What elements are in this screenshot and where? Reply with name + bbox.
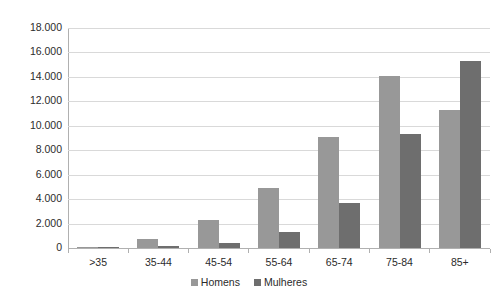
x-axis-tick-end — [490, 249, 491, 253]
legend-item-mulheres[interactable]: Mulheres — [254, 276, 307, 288]
x-axis-category-label: 75-84 — [369, 256, 429, 268]
x-axis-tick — [430, 249, 490, 254]
y-axis-labels: 18.00016.00014.00012.00010.0008.0006.000… — [0, 0, 62, 299]
legend-swatch-icon — [254, 279, 261, 286]
bar-mulheres-65-74[interactable] — [339, 203, 360, 248]
x-axis-category-label: 45-54 — [189, 256, 249, 268]
bar-group — [369, 28, 429, 248]
y-axis-tick-label: 18.000 — [4, 22, 62, 33]
bar-mulheres-35-44[interactable] — [158, 246, 179, 248]
bar-homens-75-84[interactable] — [379, 76, 400, 248]
bar-mulheres-45-54[interactable] — [219, 243, 240, 249]
bar-chart: 18.00016.00014.00012.00010.0008.0006.000… — [0, 0, 498, 299]
legend-label: Mulheres — [264, 276, 307, 288]
y-axis-tick-label: 10.000 — [4, 120, 62, 131]
x-axis-labels: >3535-4445-5455-6465-7475-8485+ — [68, 256, 490, 268]
bar-group — [189, 28, 249, 248]
y-axis-tick-label: 14.000 — [4, 71, 62, 82]
legend-swatch-icon — [191, 279, 198, 286]
x-axis-tick — [309, 249, 369, 254]
plot-area — [68, 28, 490, 248]
bar-group — [68, 28, 128, 248]
y-axis-tick-label: 12.000 — [4, 95, 62, 106]
legend-label: Homens — [201, 276, 240, 288]
x-axis-category-label: 85+ — [430, 256, 490, 268]
bar-homens-45-54[interactable] — [198, 220, 219, 248]
bar-homens-85+[interactable] — [439, 110, 460, 248]
chart-legend: HomensMulheres — [0, 276, 498, 288]
x-axis-category-label: 55-64 — [249, 256, 309, 268]
y-axis-tick-label: 2.000 — [4, 218, 62, 229]
bar-mulheres-75-84[interactable] — [400, 134, 421, 248]
bar-mulheres-85+[interactable] — [460, 61, 481, 248]
x-axis-tick — [68, 249, 128, 254]
bar-homens-35-44[interactable] — [137, 239, 158, 248]
x-axis-tick — [369, 249, 429, 254]
x-axis-tick — [128, 249, 188, 254]
y-axis-tick-label: 6.000 — [4, 169, 62, 180]
y-axis-tick-label: 0 — [4, 242, 62, 253]
bar-group — [249, 28, 309, 248]
legend-item-homens[interactable]: Homens — [191, 276, 240, 288]
bar-homens-55-64[interactable] — [258, 188, 279, 248]
x-axis-category-label: 65-74 — [309, 256, 369, 268]
bar-group — [430, 28, 490, 248]
y-axis-tick-label: 8.000 — [4, 144, 62, 155]
bar-group — [309, 28, 369, 248]
x-axis-category-label: >35 — [68, 256, 128, 268]
x-axis-tick — [249, 249, 309, 254]
bar-homens-65-74[interactable] — [318, 137, 339, 248]
bar-mulheres->35[interactable] — [98, 247, 119, 248]
bar-mulheres-55-64[interactable] — [279, 232, 300, 248]
bar-group — [128, 28, 188, 248]
x-axis-tick — [189, 249, 249, 254]
x-axis-category-label: 35-44 — [128, 256, 188, 268]
y-axis-tick-label: 16.000 — [4, 46, 62, 57]
y-axis-tick-label: 4.000 — [4, 193, 62, 204]
bar-homens->35[interactable] — [77, 247, 98, 248]
bar-groups — [68, 28, 490, 248]
x-axis-ticks — [68, 249, 490, 254]
